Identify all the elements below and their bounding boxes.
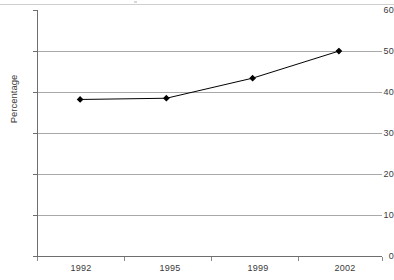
gridline-40 bbox=[37, 92, 382, 93]
x-tick-label-1995: 1995 bbox=[140, 263, 200, 273]
line-chart: Percentage 60 50 40 30 20 10 0 1992 1995… bbox=[0, 0, 394, 280]
plot-area bbox=[37, 10, 382, 256]
x-tick-boundary-1 bbox=[124, 257, 125, 261]
y-axis-line bbox=[37, 10, 38, 257]
gridline-10 bbox=[37, 215, 382, 216]
gridline-30 bbox=[37, 133, 382, 134]
x-tick-label-1999: 1999 bbox=[228, 263, 288, 273]
gridline-50 bbox=[37, 51, 382, 52]
x-tick-label-1992: 1992 bbox=[51, 263, 111, 273]
x-tick-boundary-2 bbox=[211, 257, 212, 261]
x-tick-label-2002: 2002 bbox=[315, 263, 375, 273]
y-axis-title: Percentage bbox=[9, 59, 19, 139]
x-axis-line bbox=[37, 256, 382, 257]
x-tick-boundary-3 bbox=[298, 257, 299, 261]
gridline-20 bbox=[37, 174, 382, 175]
x-tick-boundary-4 bbox=[382, 257, 383, 261]
x-tick-boundary-0 bbox=[37, 257, 38, 261]
